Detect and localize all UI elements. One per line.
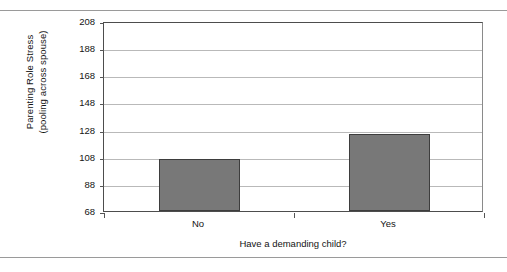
y-axis-tick-mark [100, 186, 104, 187]
y-axis-tick-label: 108 [55, 153, 95, 163]
bar-chart-figure: Parenting Role Stress (pooling across sp… [0, 11, 507, 257]
x-axis-tick-mark [484, 213, 485, 218]
x-axis-tick-label: No [153, 218, 243, 230]
x-axis-title: Have a demanding child? [103, 238, 483, 250]
page-rule-bottom [0, 257, 507, 258]
gridline [104, 104, 482, 105]
y-axis-tick-label: 68 [55, 207, 95, 217]
bar-yes [349, 134, 430, 211]
bar-no [159, 159, 240, 211]
y-axis-tick-mark [100, 159, 104, 160]
plot-area [103, 22, 483, 212]
y-axis-title-line2: (pooling across spouse) [37, 0, 50, 177]
y-axis-tick-label: 128 [55, 126, 95, 136]
y-axis-tick-label: 188 [55, 44, 95, 54]
gridline [104, 132, 482, 133]
y-axis-tick-mark [100, 50, 104, 51]
y-axis-title-line1: Parenting Role Stress [24, 0, 37, 177]
y-axis-tick-labels: 6888108128148168188208 [55, 22, 95, 212]
y-axis-tick-mark [100, 104, 104, 105]
y-axis-tick-mark [100, 132, 104, 133]
y-axis-tick-mark [100, 77, 104, 78]
y-axis-tick-mark [100, 23, 104, 24]
gridline [104, 50, 482, 51]
y-axis-tick-label: 168 [55, 71, 95, 81]
y-axis-tick-label: 88 [55, 180, 95, 190]
x-axis-tick-label: Yes [343, 218, 433, 230]
y-axis-tick-label: 208 [55, 17, 95, 27]
y-axis-tick-label: 148 [55, 98, 95, 108]
y-axis-title: Parenting Role Stress (pooling across sp… [24, 0, 54, 177]
gridline [104, 77, 482, 78]
x-axis-tick-labels: NoYes [103, 218, 483, 234]
